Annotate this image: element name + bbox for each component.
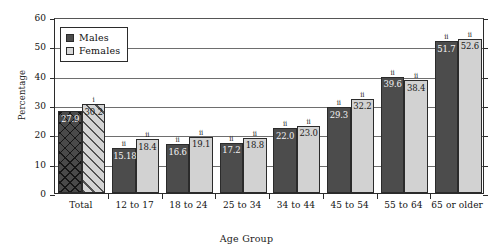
y-tick-mark [50, 19, 55, 20]
y-tick-mark-right [483, 166, 488, 167]
y-tick-mark-right [483, 48, 488, 49]
y-tick-mark [50, 48, 55, 49]
bar-value-label: 39.6 [382, 79, 404, 89]
y-tick-mark-right [483, 107, 488, 108]
bar-males: 22.0ii [273, 128, 297, 193]
y-tick-label: 60 [4, 13, 46, 23]
bar-females: 18.8ii [243, 138, 267, 193]
legend-item-females: Females [66, 44, 120, 57]
bar-value-label: 18.8 [244, 140, 266, 150]
bar-footnote-marker: ii [459, 31, 481, 39]
x-tick-label: 65 or older [431, 200, 483, 210]
bar-value-label: 29.3 [328, 110, 350, 120]
bar-footnote-marker: ii [436, 33, 458, 41]
y-tick-mark [50, 107, 55, 108]
bar-footnote-marker: ii [113, 140, 135, 148]
bar-value-label: 15.18 [113, 151, 135, 161]
x-tick-label: 18 to 24 [169, 200, 207, 210]
bar-value-label: 38.4 [405, 83, 427, 93]
y-tick-label: 40 [4, 72, 46, 82]
y-tick-mark [50, 166, 55, 167]
bar-value-label: 30.2 [83, 107, 105, 117]
x-tick-mark [430, 194, 431, 199]
y-tick-mark-right [483, 19, 488, 20]
x-axis-title: Age Group [0, 233, 493, 244]
bar-footnote-marker: ii [274, 120, 296, 128]
y-tick-label: 0 [4, 189, 46, 199]
x-tick-label: 12 to 17 [115, 200, 153, 210]
bar-females: 18.4ii [136, 139, 160, 193]
x-tick-mark [108, 194, 109, 199]
bar-footnote-marker: ii [382, 69, 404, 77]
y-tick-label: 10 [4, 160, 46, 170]
bar-males: 17.2ii [220, 143, 244, 193]
bar-females: 32.2ii [351, 99, 375, 193]
bar-value-label: 51.7 [436, 44, 458, 54]
bar-females: 52.6ii [458, 39, 482, 193]
bar-value-label: 18.4 [137, 142, 159, 152]
y-tick-label: 20 [4, 130, 46, 140]
chart-legend: Males Females [60, 27, 128, 62]
x-tick-label: 45 to 54 [330, 200, 368, 210]
bar-footnote-marker: ii [328, 99, 350, 107]
bar-value-label: 17.2 [221, 145, 243, 155]
bar-footnote-marker: ii [167, 136, 189, 144]
bar-chart: Percentage 27.930.2i15.18ii18.4ii16.6ii1… [0, 0, 493, 252]
bar-footnote-marker: ii [298, 118, 320, 126]
bar-value-label: 52.6 [459, 41, 481, 51]
bar-males: 16.6ii [166, 144, 190, 193]
x-tick-mark [215, 194, 216, 199]
bar-females: 23.0ii [297, 126, 321, 193]
bar-footnote-marker: ii [221, 135, 243, 143]
bar-footnote-marker: ii [405, 72, 427, 80]
bar-females: 19.1ii [189, 137, 213, 193]
bar-footnote-marker: ii [137, 131, 159, 139]
bar-value-label: 23.0 [298, 128, 320, 138]
bar-males: 51.7ii [435, 41, 459, 193]
bar-males: 15.18ii [112, 148, 136, 193]
x-tick-mark [377, 194, 378, 199]
x-tick-label: 34 to 44 [277, 200, 315, 210]
bar-footnote-marker: ii [244, 130, 266, 138]
y-tick-mark-right [483, 195, 488, 196]
bar-value-label: 19.1 [190, 139, 212, 149]
x-tick-mark [323, 194, 324, 199]
x-tick-label: 25 to 34 [223, 200, 261, 210]
y-tick-label: 30 [4, 101, 46, 111]
y-tick-mark [50, 195, 55, 196]
bar-value-label: 27.9 [59, 114, 81, 124]
legend-swatch-females-icon [66, 47, 74, 55]
y-tick-mark-right [483, 78, 488, 79]
bar-females: 38.4ii [404, 80, 428, 193]
y-tick-mark [50, 136, 55, 137]
legend-item-males: Males [66, 31, 120, 44]
bar-value-label: 16.6 [167, 147, 189, 157]
bar-footnote-marker: i [83, 96, 105, 104]
legend-label-males: Males [79, 32, 109, 43]
bar-footnote-marker: ii [190, 129, 212, 137]
bar-females: 30.2i [82, 104, 106, 193]
x-tick-label: 55 to 64 [384, 200, 422, 210]
bar-males: 39.6ii [381, 77, 405, 193]
bar-males: 29.3ii [327, 107, 351, 193]
x-tick-mark [269, 194, 270, 199]
legend-label-females: Females [79, 45, 120, 56]
y-tick-mark [50, 78, 55, 79]
y-tick-mark-right [483, 136, 488, 137]
legend-swatch-males-icon [66, 34, 74, 42]
x-tick-mark [162, 194, 163, 199]
y-tick-label: 50 [4, 42, 46, 52]
bar-footnote-marker: ii [352, 91, 374, 99]
bar-value-label: 22.0 [274, 131, 296, 141]
bar-males: 27.9 [58, 111, 82, 193]
bar-value-label: 32.2 [352, 101, 374, 111]
x-tick-label: Total [69, 200, 92, 210]
